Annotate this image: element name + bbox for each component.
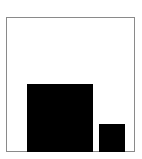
large-black-square <box>27 84 93 152</box>
small-black-square <box>99 124 125 152</box>
diagram-canvas <box>0 0 142 159</box>
